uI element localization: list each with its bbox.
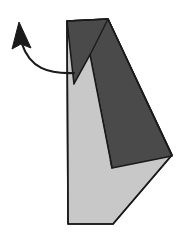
figure-canvas [0, 0, 194, 248]
fold-diagram-svg [0, 0, 194, 248]
